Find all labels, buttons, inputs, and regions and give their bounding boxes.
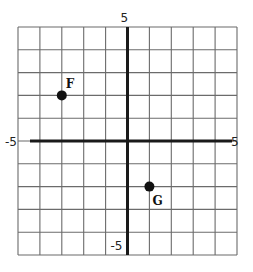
y-axis-max-label: 5: [121, 11, 129, 25]
point-f-label: F: [66, 77, 75, 91]
y-axis-min-label: -5: [111, 239, 123, 253]
x-axis-max-label: 5: [231, 135, 239, 149]
point-g-label: G: [152, 194, 162, 208]
x-axis-min-label: -5: [5, 135, 17, 149]
point-g-marker: [144, 182, 154, 192]
point-f-marker: [57, 90, 67, 100]
coordinate-plane: 5 -5 -5 5 F G: [0, 0, 253, 272]
